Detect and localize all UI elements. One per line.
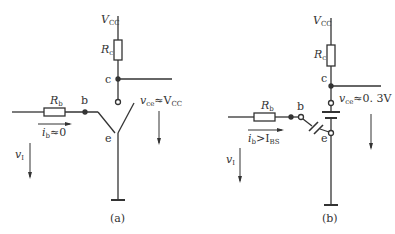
rb-label-a: Rb — [49, 94, 63, 108]
figure-b — [228, 18, 381, 205]
node-e-label-b: e — [321, 132, 328, 145]
vcc-label-b: VCC — [313, 14, 332, 28]
node-b-label-b: b — [297, 100, 304, 113]
node-c-a — [116, 77, 120, 81]
rb-label-b: Rb — [260, 99, 274, 113]
resistor-rb-b — [254, 113, 275, 121]
caption-a: (a) — [110, 212, 125, 225]
node-b-label-a: b — [81, 94, 88, 107]
figure-a-labels: VCC Rc c Rb b e vce≈VCC ib≈0 vI (a) — [15, 13, 182, 225]
vi-label-a: vI — [15, 148, 24, 162]
vce-label-a: vce≈VCC — [140, 94, 182, 108]
ib-label-b: ib>IBS — [248, 132, 280, 146]
figure-a — [12, 16, 172, 200]
vcc-label-a: VCC — [101, 13, 120, 27]
rc-label-b: Rc — [313, 48, 326, 62]
node-e-label-a: e — [105, 132, 112, 145]
resistor-rc-a — [114, 40, 122, 60]
vi-label-b: vI — [226, 153, 235, 167]
vce-label-b: vce≈0. 3V — [339, 92, 393, 106]
resistor-rc-b — [327, 45, 335, 66]
ib-label-a: ib≈0 — [42, 126, 66, 140]
figure-b-labels: VCC Rc c Rb b e vce≈0. 3V ib>IBS vI (b) — [226, 14, 393, 225]
circuit-diagram: VCC Rc c Rb b e vce≈VCC ib≈0 vI (a) — [0, 0, 395, 234]
node-c-label-b: c — [321, 72, 327, 85]
node-b-b — [289, 115, 293, 119]
resistor-rb-a — [44, 108, 65, 116]
node-c-label-a: c — [105, 73, 111, 86]
rc-label-a: Rc — [100, 43, 113, 57]
node-b-a — [83, 110, 87, 114]
caption-b: (b) — [322, 212, 338, 225]
